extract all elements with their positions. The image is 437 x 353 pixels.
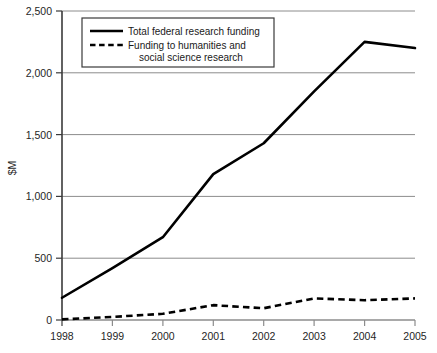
figure-container: 2,500 2,000 1,500 1,000 500 0 $M 1998 19… bbox=[0, 0, 437, 353]
y-axis-title: $M bbox=[6, 161, 18, 176]
y-tick-label-0: 0 bbox=[46, 314, 52, 326]
line-chart: 2,500 2,000 1,500 1,000 500 0 $M 1998 19… bbox=[0, 0, 437, 353]
x-tick-labels: 1998 1999 2000 2001 2002 2003 2004 2005 bbox=[50, 330, 427, 342]
y-tick-marks bbox=[56, 11, 62, 320]
y-tick-label-1500: 1,500 bbox=[26, 129, 52, 141]
x-tick-label-2003: 2003 bbox=[302, 330, 326, 342]
legend-label-humanities-line2: social science research bbox=[139, 52, 243, 63]
x-tick-label-2005: 2005 bbox=[403, 330, 427, 342]
x-tick-label-2004: 2004 bbox=[353, 330, 377, 342]
x-tick-label-1998: 1998 bbox=[50, 330, 74, 342]
y-tick-labels: 2,500 2,000 1,500 1,000 500 0 bbox=[26, 5, 52, 326]
y-tick-label-1000: 1,000 bbox=[26, 190, 52, 202]
series-line-humanities-social-science bbox=[62, 298, 415, 319]
y-tick-label-2000: 2,000 bbox=[26, 67, 52, 79]
x-tick-label-2001: 2001 bbox=[202, 330, 226, 342]
y-tick-label-500: 500 bbox=[34, 252, 52, 264]
x-tick-label-1999: 1999 bbox=[101, 330, 125, 342]
legend-label-humanities-line1: Funding to humanities and bbox=[128, 40, 246, 51]
x-tick-marks bbox=[62, 320, 415, 326]
legend: Total federal research funding Funding t… bbox=[82, 18, 274, 67]
legend-label-total-federal-research-funding: Total federal research funding bbox=[128, 26, 260, 37]
x-tick-label-2000: 2000 bbox=[151, 330, 175, 342]
x-tick-label-2002: 2002 bbox=[252, 330, 276, 342]
y-tick-label-2500: 2,500 bbox=[26, 5, 52, 17]
series-line-total-federal-research-funding bbox=[62, 42, 415, 298]
